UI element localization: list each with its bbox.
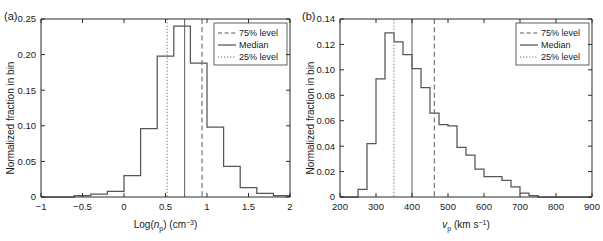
y-tick-label: 0.02 bbox=[317, 166, 336, 177]
y-tick-label: 0.25 bbox=[18, 13, 37, 24]
y-tick-label: 0.08 bbox=[317, 90, 336, 101]
y-tick-label: 0.12 bbox=[317, 39, 336, 50]
x-tick-label: 1 bbox=[204, 201, 209, 212]
x-tick-label: 0 bbox=[121, 201, 126, 212]
x-label-text: vp (km s−1) bbox=[442, 219, 489, 233]
legend-label: Median bbox=[239, 40, 269, 50]
x-label-text: Log(np) (cm−3) bbox=[134, 219, 198, 233]
panel-a-density-histogram: −1−0.500.511.5200.050.100.150.200.2575% … bbox=[0, 0, 301, 241]
x-tick-label: 600 bbox=[476, 201, 492, 212]
panel-b-plot: 20030040050060070080090000.020.040.060.0… bbox=[317, 13, 600, 212]
y-tick-label: 0.06 bbox=[317, 115, 336, 126]
legend-label: 25% level bbox=[541, 52, 580, 62]
panel-b-velocity-histogram: 20030040050060070080090000.020.040.060.0… bbox=[302, 0, 603, 241]
panel-a-tag: (a) bbox=[4, 10, 17, 22]
x-tick-label: 400 bbox=[404, 201, 420, 212]
panel-a-plot: −1−0.500.511.5200.050.100.150.200.2575% … bbox=[18, 13, 293, 212]
legend-label: 75% level bbox=[239, 28, 278, 38]
y-tick-label: 0.05 bbox=[18, 156, 37, 167]
panel-a-y-axis-label: Normalized fraction in bin bbox=[5, 62, 16, 175]
x-tick-label: 0.5 bbox=[159, 201, 172, 212]
y-tick-label: 0.04 bbox=[317, 141, 336, 152]
y-tick-label: 0 bbox=[330, 191, 335, 202]
y-tick-label: 0.14 bbox=[317, 13, 336, 24]
legend-label: 25% level bbox=[239, 52, 278, 62]
legend-label: 75% level bbox=[541, 28, 580, 38]
x-tick-label: 200 bbox=[332, 201, 348, 212]
x-tick-label: 2 bbox=[287, 201, 292, 212]
x-tick-label: 900 bbox=[584, 201, 600, 212]
y-tick-label: 0.10 bbox=[317, 64, 336, 75]
y-tick-label: 0 bbox=[31, 191, 36, 202]
panel-a-x-axis-label: Log(np) (cm−3) bbox=[134, 219, 198, 233]
panel-b-x-axis-label: vp (km s−1) bbox=[442, 219, 489, 233]
x-tick-label: 800 bbox=[548, 201, 564, 212]
y-tick-label: 0.20 bbox=[18, 49, 37, 60]
panel-b-tag: (b) bbox=[302, 10, 315, 22]
x-tick-label: −1 bbox=[36, 201, 47, 212]
x-tick-label: 700 bbox=[512, 201, 528, 212]
figure-container: −1−0.500.511.5200.050.100.150.200.2575% … bbox=[0, 0, 603, 241]
panel-b-svg: 20030040050060070080090000.020.040.060.0… bbox=[302, 0, 603, 241]
y-tick-label: 0.10 bbox=[18, 120, 37, 131]
x-tick-label: 500 bbox=[440, 201, 456, 212]
y-tick-label: 0.15 bbox=[18, 85, 37, 96]
x-tick-label: 300 bbox=[368, 201, 384, 212]
x-tick-label: −0.5 bbox=[73, 201, 92, 212]
legend-label: Median bbox=[541, 40, 571, 50]
panel-b-y-axis-label: Normalized fraction in bin bbox=[305, 62, 316, 175]
panel-a-svg: −1−0.500.511.5200.050.100.150.200.2575% … bbox=[0, 0, 301, 241]
x-tick-label: 1.5 bbox=[242, 201, 255, 212]
